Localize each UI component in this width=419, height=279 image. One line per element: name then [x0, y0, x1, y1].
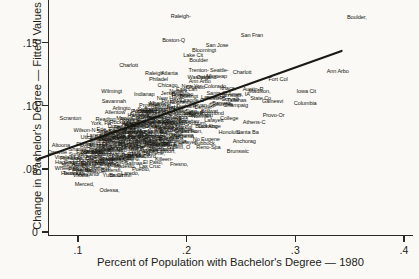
data-point-label: Athens-C: [243, 119, 266, 125]
data-point-label: Scranton: [60, 115, 82, 121]
y-axis-title: Change in Bachelor's Degree — Fitted Val…: [31, 0, 43, 241]
data-point-label: Omaha, N: [129, 139, 154, 145]
x-tick: [77, 236, 78, 242]
y-axis-line: [48, 0, 49, 236]
data-point-label: New Yor: [182, 83, 202, 89]
data-point-label: Visalia,: [73, 172, 90, 178]
data-point-label: Wilmingt: [101, 88, 122, 94]
data-point-label: Columbia: [294, 100, 317, 106]
data-point-label: Baltimor: [144, 106, 164, 112]
data-point-label: Provo-Or: [263, 112, 285, 118]
data-point-label: San Jose: [206, 42, 229, 48]
data-point-label: Raleigh-: [171, 13, 191, 19]
data-point-label: Iowa Cit: [297, 88, 316, 94]
data-point-label: Savannah: [102, 98, 126, 104]
data-point-label: Merced,: [75, 181, 95, 187]
x-tick-label: .3: [280, 244, 310, 256]
data-point-label: Toledo,: [107, 147, 124, 153]
scatter-plot: 0.05.10.15 .1.2.3.4 HarrisbuSyracuseAkro…: [0, 0, 419, 279]
data-point-label: Anchorag: [233, 138, 256, 144]
data-point-label: El Paso,: [143, 159, 163, 165]
data-point-label: Brunswic: [227, 148, 249, 154]
data-point-label: Fresno,: [170, 161, 188, 167]
data-point-label: Champaig: [223, 102, 248, 108]
data-point-label: Washingt: [188, 74, 210, 80]
data-point-label: Ann Arbo: [327, 68, 349, 74]
data-point-label: Chicago,: [158, 82, 179, 88]
data-point-label: Wichita,: [101, 135, 120, 141]
data-point-label: Charlott: [119, 62, 138, 68]
x-tick-label: .2: [172, 244, 202, 256]
data-point-label: Yuba Cit: [103, 172, 123, 178]
data-point-label: Boulder,: [347, 14, 367, 20]
data-point-label: Boston-Q: [162, 37, 185, 43]
data-point-label: Fort Col: [268, 76, 287, 82]
data-point-label: Salem, O: [168, 144, 191, 150]
data-point-label: Indianap: [134, 91, 155, 97]
data-point-label: Colorado: [204, 83, 226, 89]
data-point-label: San Fran: [241, 32, 263, 38]
data-point-label: Charlott: [233, 69, 252, 75]
x-tick: [403, 236, 404, 242]
data-point-label: Boulder: [189, 57, 208, 63]
data-point-label: Santa Ba: [236, 129, 258, 135]
data-point-label: Houston-: [171, 92, 193, 98]
data-point-label: Hagersto: [55, 159, 77, 165]
data-point-label: Allentow: [105, 109, 125, 115]
data-point-label: Gainesvi: [262, 98, 283, 104]
data-point-label: Wilson-N: [74, 127, 96, 133]
data-point-label: Honolulu: [218, 129, 239, 135]
data-point-label: Los Ange: [198, 123, 221, 129]
data-point-label: Odessa,: [99, 187, 119, 193]
data-point-label: Madison,: [249, 88, 271, 94]
data-point-label: Reno-Spa: [196, 144, 220, 150]
data-point-label: Philadel: [149, 76, 168, 82]
x-axis-line: [48, 235, 413, 236]
data-point-label: Reading,: [95, 116, 117, 122]
x-tick: [295, 236, 296, 242]
data-point-label: McAllen-: [95, 160, 116, 166]
x-axis-title: Percent of Population with Bachelor's De…: [48, 256, 413, 268]
x-tick: [186, 236, 187, 242]
x-tick-label: .1: [63, 244, 93, 256]
x-tick-label: .4: [389, 244, 419, 256]
